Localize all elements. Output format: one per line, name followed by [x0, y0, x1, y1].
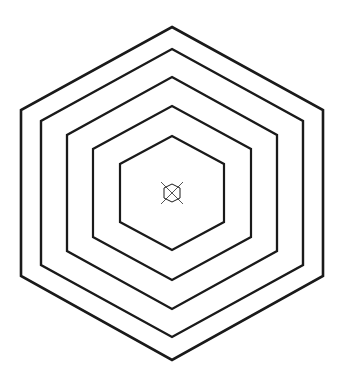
figure-root: [0, 0, 345, 387]
hexagon-diagram-svg: [0, 0, 345, 387]
